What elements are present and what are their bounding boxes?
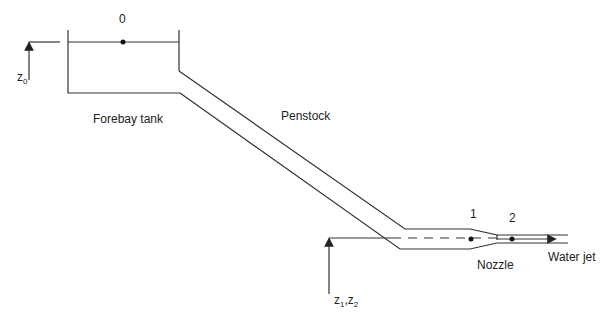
hydraulic-diagram xyxy=(0,0,610,324)
point-0-marker xyxy=(121,40,126,45)
point-1-marker xyxy=(469,237,474,242)
point-2-label: 2 xyxy=(509,211,516,225)
point-2-marker xyxy=(510,237,515,242)
forebay-tank-outline xyxy=(68,30,180,93)
penstock-label: Penstock xyxy=(281,109,330,123)
z1-z2-label: z1,z2 xyxy=(334,293,358,309)
z0-label: z0 xyxy=(17,70,27,86)
forebay-tank-label: Forebay tank xyxy=(93,112,163,126)
penstock-upper-wall xyxy=(179,71,497,240)
penstock-lower-wall xyxy=(180,93,497,249)
water-jet-label: Water jet xyxy=(548,250,596,264)
nozzle-label: Nozzle xyxy=(477,258,514,272)
point-0-label: 0 xyxy=(119,12,126,26)
point-1-label: 1 xyxy=(470,207,477,221)
